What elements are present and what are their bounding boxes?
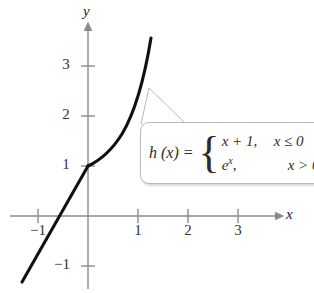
y-tick-label-neg1: −1 — [48, 256, 76, 273]
x-axis-label: x — [286, 206, 293, 223]
x-tick-label-1: 1 — [128, 222, 148, 239]
case-expression-linear: x + 1, — [222, 129, 274, 153]
y-tick-label-2: 2 — [56, 106, 76, 123]
case-row-second: ex, x > 0 — [222, 153, 314, 177]
case-expression-exponential: ex, — [222, 153, 274, 177]
y-axis-label: y — [83, 3, 90, 20]
case-condition-linear: x ≤ 0 — [274, 129, 304, 153]
piecewise-formula: h (x) = { x + 1, x ≤ 0 ex, x > 0 — [140, 122, 314, 184]
case-row-first: x + 1, x ≤ 0 — [222, 129, 314, 153]
y-tick-label-1: 1 — [56, 156, 76, 173]
exp-comma: , — [233, 157, 237, 173]
x-tick-label-neg1: −1 — [24, 222, 52, 239]
x-tick-label-3: 3 — [228, 222, 248, 239]
case-list: x + 1, x ≤ 0 ex, x > 0 — [222, 129, 314, 178]
case-condition-exponential: x > 0 — [288, 153, 314, 177]
function-label: h (x) = — [149, 144, 194, 162]
x-tick-label-2: 2 — [178, 222, 198, 239]
y-tick-label-3: 3 — [56, 56, 76, 73]
case-brace: { — [199, 135, 220, 171]
callout-tail — [141, 88, 186, 124]
piecewise-function-figure: x y −1 1 2 3 3 2 1 −1 h (x) = { x + 1, x… — [0, 0, 314, 293]
